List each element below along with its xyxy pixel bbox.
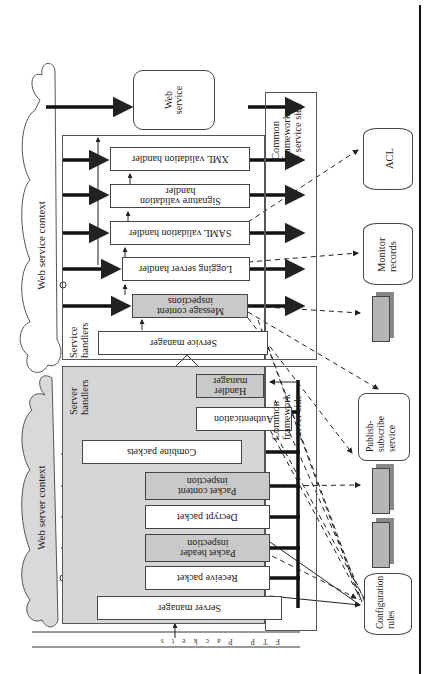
- acl-label: ACL: [384, 148, 395, 169]
- configuration-rules-store: Configuration rules: [364, 573, 412, 635]
- acl-store: ACL: [363, 128, 413, 190]
- publish-subscribe-label: Publish- subscribe service: [365, 416, 398, 452]
- queue-slab-content: [372, 468, 390, 514]
- server-framework-label: Common framework server side: [270, 394, 303, 440]
- service-handlers-label: Service handlers: [68, 322, 90, 358]
- handler-label: Receive packet: [177, 573, 238, 583]
- web-server-context-label: Web server context: [36, 465, 47, 550]
- handler-packet-header-inspection: Packet header inspection: [145, 534, 270, 562]
- server-manager-label: Server manager: [158, 603, 221, 613]
- handler-xml-validation: XML validation handler: [110, 147, 250, 171]
- publish-subscribe-service: Publish- subscribe service: [358, 393, 410, 461]
- handler-signature-validation: Signature validation handler: [110, 184, 250, 208]
- monitor-records-store: Monitor records: [363, 223, 413, 285]
- handler-saml-validation: SAML validation handler: [110, 221, 250, 245]
- handler-label: Signature validation handler: [140, 186, 221, 206]
- configuration-rules-label: Configuration rules: [375, 576, 397, 629]
- handler-label: Packet content inspection: [178, 476, 237, 496]
- handler-manager-box: Handler manager: [196, 374, 264, 398]
- combine-packets-box: Combine packets: [82, 440, 242, 464]
- handler-decrypt-packet: Decrypt packet: [145, 505, 270, 529]
- queue-slab-service: [372, 296, 390, 342]
- web-service-context-label: Web service context: [36, 201, 47, 290]
- monitor-records-label: Monitor records: [376, 238, 398, 272]
- handler-label: Decrypt packet: [177, 512, 238, 522]
- handler-label: XML validation handler: [132, 154, 229, 164]
- handler-receive-packet: Receive packet: [145, 566, 270, 590]
- queue-slab-header: [372, 522, 390, 568]
- authentication-label: Authentication: [214, 414, 273, 424]
- server-manager-box: Server manager: [97, 596, 282, 620]
- handler-packet-content-inspection: Packet content inspection: [145, 472, 270, 500]
- server-handlers-label: Server handlers: [68, 379, 90, 415]
- handler-manager-label: Handler manager: [213, 376, 247, 396]
- web-service-box: Web service: [133, 70, 215, 130]
- handler-label: Packet header inspection: [180, 538, 236, 558]
- handler-logging-server: Logging server handler: [122, 257, 250, 281]
- service-framework-label: Common framework – service side: [270, 103, 303, 160]
- service-manager-label: Service manager: [150, 338, 217, 348]
- service-manager-box: Service manager: [98, 331, 268, 355]
- web-service-label: Web service: [164, 86, 184, 114]
- ftp-packets-label: F T P P a c k e t s: [40, 634, 280, 646]
- handler-label: Logging server handler: [139, 264, 232, 274]
- handler-message-content-inspections: Message content inspections: [132, 294, 248, 318]
- handler-label: SAML validation handler: [129, 228, 231, 238]
- handler-label: Message content inspections: [157, 296, 224, 316]
- combine-packets-label: Combine packets: [127, 447, 196, 457]
